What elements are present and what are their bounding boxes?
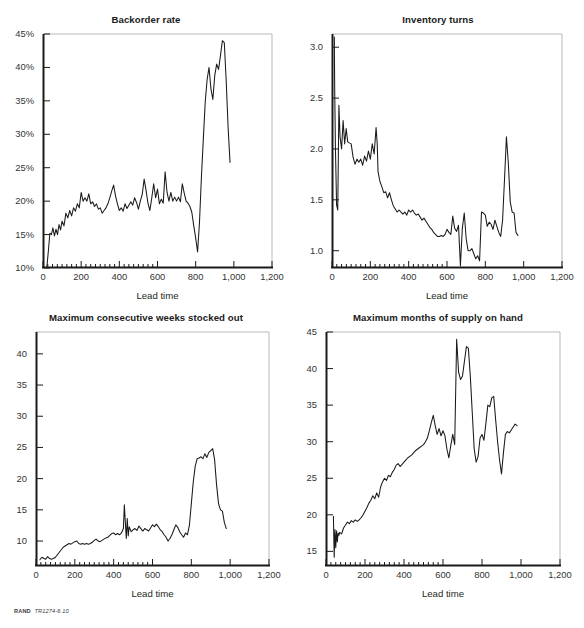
y-tick-label: 25%: [0, 163, 34, 173]
y-tick-label: 10: [0, 536, 27, 546]
data-line: [333, 339, 517, 557]
y-tick-label: 20: [0, 474, 27, 484]
y-tick-label: 35: [292, 400, 317, 410]
x-tick-label: 1,200: [536, 570, 584, 580]
y-tick-label: 45%: [0, 29, 34, 39]
y-tick-label: 2.5: [292, 93, 323, 103]
y-tick-label: 30%: [0, 129, 34, 139]
y-tick-label: 35: [0, 380, 27, 390]
panel-max-consecutive-weeks-stocked-out: Maximum consecutive weeks stocked out 10…: [0, 312, 292, 608]
y-tick-label: 45: [292, 327, 317, 337]
plot-frame: [326, 332, 560, 566]
x-axis-title: Lead time: [332, 290, 562, 301]
y-tick-label: 20%: [0, 196, 34, 206]
data-line: [47, 41, 230, 268]
y-tick-label: 40%: [0, 62, 34, 72]
chart-canvas-inventory-turns: [292, 14, 584, 290]
y-tick-label: 30: [292, 437, 317, 447]
panel-max-months-of-supply-on-hand: Maximum months of supply on hand 1520253…: [292, 312, 584, 608]
y-tick-label: 15%: [0, 230, 34, 240]
y-tick-label: 40: [0, 349, 27, 359]
plot-frame: [332, 34, 562, 268]
x-axis-title: Lead time: [326, 588, 560, 599]
x-axis-title: Lead time: [36, 588, 269, 599]
y-tick-label: 40: [292, 364, 317, 374]
credit-brand: RAND: [14, 608, 31, 614]
plot-area-backorder-rate: 10%15%20%25%30%35%40%45%02004006008001,0…: [0, 14, 292, 290]
y-tick-label: 3.0: [292, 42, 323, 52]
plot-frame: [43, 34, 272, 268]
plot-area-max-months-of-supply-on-hand: 1520253035404502004006008001,0001,200Lea…: [292, 312, 584, 588]
y-tick-label: 15: [292, 546, 317, 556]
y-tick-label: 35%: [0, 96, 34, 106]
y-tick-label: 25: [0, 442, 27, 452]
y-tick-label: 15: [0, 505, 27, 515]
panel-backorder-rate: Backorder rate 10%15%20%25%30%35%40%45%0…: [0, 14, 292, 310]
y-tick-label: 1.5: [292, 195, 323, 205]
x-tick-label: 1,200: [538, 272, 584, 282]
x-tick-label: 1,200: [248, 272, 296, 282]
plot-area-inventory-turns: 1.01.52.02.53.002004006008001,0001,200Le…: [292, 14, 584, 290]
x-axis-title: Lead time: [43, 290, 272, 301]
clipped-page-title: [0, 0, 584, 1]
y-tick-label: 2.0: [292, 144, 323, 154]
data-line: [40, 449, 226, 560]
y-tick-label: 1.0: [292, 246, 323, 256]
x-tick-label: 1,200: [245, 570, 293, 580]
plot-frame: [36, 332, 269, 566]
credit-code: TR1274-6.10: [32, 608, 68, 614]
panel-inventory-turns: Inventory turns 1.01.52.02.53.0020040060…: [292, 14, 584, 310]
y-tick-label: 25: [292, 473, 317, 483]
chart-canvas-maximum-consecutive-weeks-stocked-out: [0, 312, 292, 588]
source-credit: RAND TR1274-6.10: [14, 608, 69, 614]
chart-canvas-maximum-months-of-supply-on-hand: [292, 312, 584, 588]
data-line: [334, 37, 518, 266]
y-tick-label: 30: [0, 411, 27, 421]
plot-area-max-consecutive-weeks-stocked-out: 1015202530354002004006008001,0001,200Lea…: [0, 312, 292, 588]
figure-lead-time-panels: Backorder rate 10%15%20%25%30%35%40%45%0…: [0, 0, 584, 628]
chart-canvas-backorder-rate: [0, 14, 292, 290]
y-tick-label: 20: [292, 510, 317, 520]
